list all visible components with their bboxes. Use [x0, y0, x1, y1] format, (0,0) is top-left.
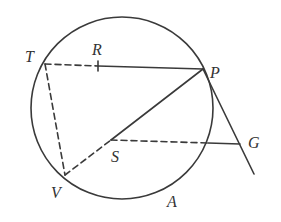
geometry-diagram: T R P S V G A — [0, 0, 281, 222]
segment-VS — [65, 140, 111, 175]
label-G: G — [248, 134, 260, 151]
segment-RP — [98, 66, 203, 69]
segment-TV — [45, 64, 65, 175]
label-V: V — [51, 184, 63, 201]
segment-circle-to-G — [208, 143, 240, 144]
tangent-line-P — [203, 69, 254, 174]
label-T: T — [25, 48, 35, 65]
label-A: A — [166, 193, 177, 210]
label-P: P — [209, 64, 220, 81]
label-R: R — [91, 41, 102, 58]
segment-SP — [111, 69, 203, 140]
label-S: S — [111, 148, 119, 165]
circle — [31, 17, 213, 199]
segment-TR — [45, 64, 98, 66]
segment-S-to-circle — [111, 140, 208, 143]
